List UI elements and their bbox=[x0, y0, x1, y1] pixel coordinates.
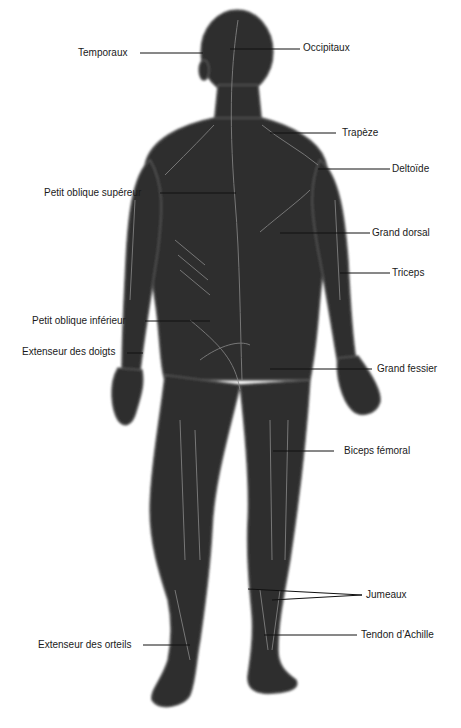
label-temporaux: Temporaux bbox=[78, 47, 127, 59]
body-silhouette bbox=[112, 10, 380, 707]
label-extenseur-orteils: Extenseur des orteils bbox=[38, 639, 131, 651]
label-tendon-achille: Tendon d’Achille bbox=[361, 629, 434, 641]
label-occipitaux: Occipitaux bbox=[303, 42, 350, 54]
label-petit-oblique-superieur: Petit oblique supéreur bbox=[44, 187, 141, 199]
label-petit-oblique-inferieur: Petit oblique inférieur bbox=[32, 315, 126, 327]
label-grand-dorsal: Grand dorsal bbox=[372, 227, 430, 239]
label-trapeze: Trapèze bbox=[342, 127, 378, 139]
label-jumeaux: Jumeaux bbox=[366, 589, 407, 601]
label-grand-fessier: Grand fessier bbox=[377, 363, 437, 375]
label-triceps: Triceps bbox=[392, 267, 424, 279]
label-deltoide: Deltoïde bbox=[392, 163, 429, 175]
label-extenseur-doigts: Extenseur des doigts bbox=[22, 346, 115, 358]
label-biceps-femoral: Biceps fémoral bbox=[344, 445, 410, 457]
